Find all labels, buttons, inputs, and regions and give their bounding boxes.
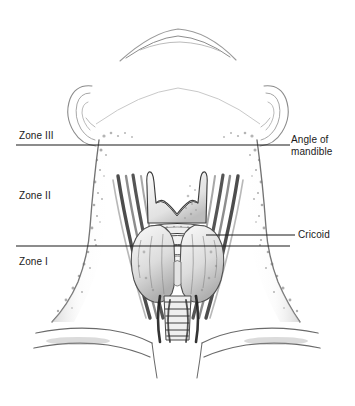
angle-of-mandible-line-2: mandible: [291, 146, 332, 157]
angle-of-mandible-line-1: Angle of: [291, 134, 329, 145]
cricoid-label: Cricoid: [298, 229, 330, 241]
zone-3-label: Zone III: [19, 130, 54, 142]
left-ear: [68, 86, 96, 146]
zone-1-label: Zone I: [19, 256, 48, 268]
anatomical-illustration: [0, 0, 355, 406]
angle-of-mandible-label: Angle ofmandible: [291, 134, 332, 158]
right-ear: [260, 86, 288, 146]
jawline-shadow: [96, 88, 260, 124]
zone-2-label: Zone II: [19, 190, 51, 202]
neck-zones-figure: Zone III Zone II Zone I Angle ofmandible…: [0, 0, 355, 406]
chin-and-jaw: [120, 29, 236, 61]
